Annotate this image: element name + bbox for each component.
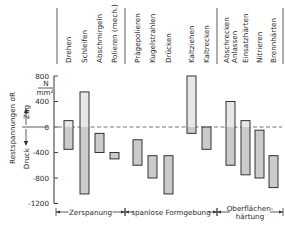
- group-label: Zerspanung: [69, 208, 112, 217]
- category-label: Nitrieren: [255, 32, 264, 63]
- bar-prägepolieren: [133, 140, 142, 166]
- y-axis-label: Restspannungen σR: [8, 92, 17, 164]
- bar-drücken: [164, 156, 173, 194]
- category-label: Kugelstrahlen: [148, 14, 157, 63]
- category-label: Drehen: [64, 37, 73, 63]
- arrow-down-icon: [24, 141, 28, 146]
- compression-label: Druck: [22, 147, 31, 169]
- category-label: Brennhärten: [269, 18, 278, 63]
- group-label: spanlose Formgebung: [131, 208, 210, 217]
- category-label: Prägepolieren: [133, 13, 142, 63]
- y-tick-label: -400: [33, 148, 50, 157]
- bar-kaltrecken: [202, 127, 211, 149]
- bar-einsatzhärten: [241, 121, 250, 175]
- bar-brennhärten: [269, 156, 278, 188]
- bar-kaltziehen: [187, 76, 196, 133]
- y-tick-label: 400: [35, 97, 49, 106]
- group-labels: Zerspanungspanlose FormgebungOberflächen…: [56, 204, 283, 222]
- category-label: Anlassen: [230, 31, 239, 63]
- y-unit-denominator: mm²: [37, 88, 54, 97]
- category-label: Kaltrecken: [202, 25, 211, 63]
- bars: [64, 76, 278, 194]
- bar-nitrieren: [255, 130, 264, 178]
- category-label: Kaltziehen: [187, 25, 196, 63]
- y-tick-label: -1200: [28, 199, 49, 208]
- bar-polieren-mech-: [110, 153, 119, 159]
- category-label: Abschmirgeln: [95, 14, 104, 63]
- group-label: härtung: [236, 212, 264, 221]
- y-tick-label: -800: [33, 174, 50, 183]
- bar-drehen: [64, 121, 73, 150]
- category-header: DrehenSchleifenAbschmirgelnPolieren (mec…: [57, 4, 283, 64]
- bar-schleifen: [80, 92, 89, 194]
- bar-abschmirgeln: [95, 133, 104, 152]
- bar-kugelstrahlen: [148, 156, 157, 178]
- category-label: Schleifen: [80, 30, 89, 63]
- residual-stress-chart: DrehenSchleifenAbschmirgelnPolieren (mec…: [0, 0, 285, 225]
- category-label: Einsatzhärten: [241, 13, 250, 63]
- category-label: Polieren (mech.): [110, 4, 119, 63]
- bar-abschrecken-anlassen: [226, 102, 235, 166]
- category-label: Drücken: [164, 33, 173, 63]
- tension-label: Zug: [22, 105, 31, 119]
